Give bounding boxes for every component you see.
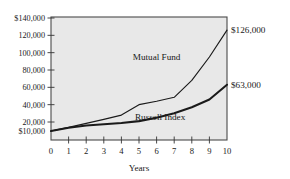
endpoint-label-mutual-fund: $126,000 bbox=[231, 25, 266, 35]
y-axis-tick-label: $10,000 bbox=[18, 127, 45, 136]
x-axis-tick-label: 4 bbox=[119, 146, 124, 156]
chart-canvas: $140,000120,000100,00080,00060,00040,000… bbox=[0, 0, 290, 179]
x-axis-tick-label: 9 bbox=[207, 146, 211, 156]
x-axis-tick-labels: 012345678910 bbox=[49, 146, 231, 156]
investment-growth-chart: $140,000120,000100,00080,00060,00040,000… bbox=[0, 0, 290, 179]
y-axis-tick-labels: $140,000120,000100,00080,00060,00040,000… bbox=[14, 14, 45, 136]
x-axis-tick-label: 2 bbox=[84, 146, 88, 156]
x-axis-tick-label: 3 bbox=[102, 146, 106, 156]
x-axis-title: Years bbox=[129, 163, 150, 173]
series-label-russell-index: Russell Index bbox=[135, 112, 186, 122]
x-axis-tick-label: 6 bbox=[154, 146, 159, 156]
endpoint-label-russell-index: $63,000 bbox=[231, 80, 261, 90]
series-label-mutual-fund: Mutual Fund bbox=[133, 52, 181, 62]
y-axis-tick-label: 120,000 bbox=[18, 31, 45, 40]
x-axis-tick-label: 1 bbox=[66, 146, 70, 156]
x-axis-tick-label: 8 bbox=[190, 146, 194, 156]
x-axis-tick-label: 7 bbox=[172, 146, 177, 156]
x-axis-tick-label: 0 bbox=[49, 146, 53, 156]
y-axis-tick-label: 80,000 bbox=[22, 66, 45, 75]
x-axis-tick-label: 10 bbox=[223, 146, 232, 156]
x-axis-tick-label: 5 bbox=[137, 146, 141, 156]
y-axis-tick-label: 60,000 bbox=[22, 83, 45, 92]
y-axis-tick-label: 100,000 bbox=[18, 49, 45, 58]
y-axis-tick-label: $140,000 bbox=[14, 14, 45, 23]
y-axis-tick-label: 20,000 bbox=[22, 118, 45, 127]
y-axis-tick-label: 40,000 bbox=[22, 101, 45, 110]
